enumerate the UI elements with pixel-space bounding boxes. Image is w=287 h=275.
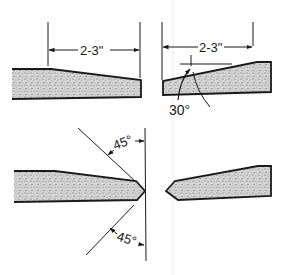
top-left-dimension-label: 2-3" <box>80 43 104 58</box>
upper-45-label: 45° <box>111 132 135 153</box>
upper-45-arrow-left <box>108 150 114 155</box>
top-right-dimension-label: 2-3" <box>199 40 223 55</box>
blade-profiles-diagram: 2-3" 2-3" 30° 45° <box>0 0 287 275</box>
lower-45-label: 45° <box>115 229 138 249</box>
lower-45-arrow-right <box>138 244 144 245</box>
top-left-blade-shape <box>12 69 141 99</box>
top-left-profile: 2-3" <box>12 22 141 99</box>
center-vertical-line <box>145 128 146 261</box>
lower-45-arrow-left <box>110 228 117 234</box>
top-right-profile: 2-3" 30° <box>162 22 271 118</box>
diagram-canvas: 2-3" 2-3" 30° 45° <box>0 0 287 275</box>
angle-30-label: 30° <box>169 102 190 118</box>
bottom-right-blade-shape <box>166 166 271 200</box>
bottom-left-profile: 45° 45° <box>14 128 146 261</box>
bottom-right-profile <box>166 166 271 200</box>
bottom-left-blade-shape <box>14 171 145 202</box>
